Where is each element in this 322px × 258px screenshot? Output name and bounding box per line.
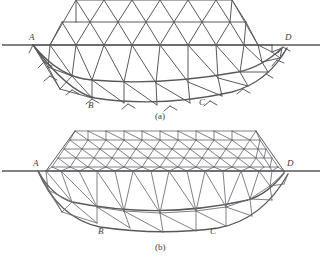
figure-b-lattice-lower-bottom bbox=[38, 171, 288, 232]
figure-b-crest-lines bbox=[46, 131, 284, 171]
figure-a-label-C: C bbox=[199, 97, 206, 107]
figure-b-lattice-band3 bbox=[58, 149, 272, 158]
figure-a-slip-surfaces bbox=[33, 45, 287, 102]
figure-b-lattice-lower-upper bbox=[38, 171, 284, 213]
figure-a-mesh: A B C D (a) bbox=[0, 0, 322, 122]
figure-b-mesh: A B C D (b) bbox=[0, 128, 322, 258]
figure-b-lattice-band4 bbox=[52, 158, 278, 167]
figure-root: A B C D (a) bbox=[0, 0, 322, 258]
figure-a-label-A: A bbox=[28, 32, 35, 42]
figure-b-label-C: C bbox=[210, 226, 217, 236]
figure-b-caption: (b) bbox=[155, 242, 166, 252]
figure-b-slopes bbox=[46, 131, 284, 171]
figure-b-label-A: A bbox=[32, 158, 39, 168]
figure-b-label-D: D bbox=[286, 158, 294, 168]
figure-a-label-D: D bbox=[284, 32, 292, 42]
figure-a-crest-lines bbox=[50, 0, 272, 45]
figure-a-label-B: B bbox=[88, 100, 94, 110]
figure-a-lattice-middle bbox=[50, 22, 258, 45]
figure-a-caption: (a) bbox=[155, 111, 165, 121]
figure-b-lattice-band1 bbox=[70, 131, 260, 140]
figure-b-lattice-band2 bbox=[64, 140, 266, 149]
figure-a-lattice-upper bbox=[76, 0, 246, 22]
figure-b-label-B: B bbox=[98, 226, 104, 236]
figure-a-lattice-lower bbox=[33, 45, 287, 105]
